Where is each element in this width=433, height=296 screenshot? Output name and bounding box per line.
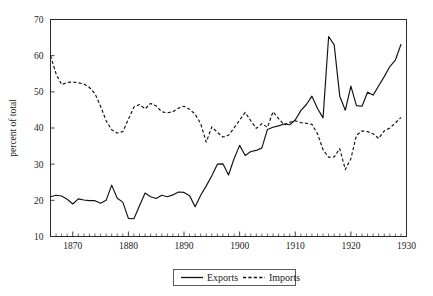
x-axis-tick-labels: 1870188018901900191019201930 <box>63 241 416 251</box>
x-tick-label: 1870 <box>63 241 82 251</box>
legend-label-imports: Imports <box>269 272 300 283</box>
legend: Exports Imports <box>174 270 301 286</box>
chart-figure: percent of total 10203040506070 18701880… <box>0 0 433 296</box>
x-tick-label: 1880 <box>119 241 138 251</box>
y-tick-label: 70 <box>34 15 44 25</box>
y-tick-label: 10 <box>34 232 44 242</box>
y-tick-label: 20 <box>34 196 44 206</box>
y-axis-tick-marks <box>51 20 55 237</box>
x-tick-label: 1910 <box>286 241 305 251</box>
x-tick-label: 1900 <box>230 241 249 251</box>
x-tick-label: 1920 <box>341 241 360 251</box>
y-axis-title: percent of total <box>8 99 18 157</box>
y-tick-label: 60 <box>34 51 44 61</box>
y-axis-tick-labels: 10203040506070 <box>34 15 44 242</box>
y-tick-label: 50 <box>34 87 44 97</box>
plot-frame <box>51 20 407 237</box>
y-tick-label: 30 <box>34 160 44 170</box>
y-tick-label: 40 <box>34 123 44 133</box>
x-tick-label: 1930 <box>397 241 416 251</box>
y-axis-title-group: percent of total <box>8 99 18 157</box>
series-line-exports <box>51 37 401 219</box>
legend-label-exports: Exports <box>207 272 238 283</box>
x-tick-label: 1890 <box>175 241 194 251</box>
line-chart: percent of total 10203040506070 18701880… <box>0 0 433 296</box>
series-line-imports <box>51 56 401 170</box>
